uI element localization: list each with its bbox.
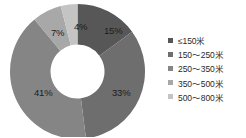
legend-item-label: 500～800米 <box>178 91 224 103</box>
legend-item-label: 350～500米 <box>178 77 224 89</box>
chart-legend: ≤150米150～250米250～350米350～500米500～800米 <box>168 33 244 104</box>
legend-item-label: 250～350米 <box>178 62 224 74</box>
legend-item[interactable]: 250～350米 <box>168 61 244 75</box>
chart-container: 15%33%41%7%4% ≤150米150～250米250～350米350～5… <box>0 0 246 138</box>
legend-item[interactable]: 150～250米 <box>168 47 244 61</box>
donut-slice-label: 15% <box>104 25 122 36</box>
legend-item[interactable]: ≤150米 <box>168 33 244 47</box>
legend-swatch-icon <box>168 38 173 43</box>
donut-chart: 15%33%41%7%4% <box>8 3 148 137</box>
legend-swatch-icon <box>168 52 173 57</box>
legend-swatch-icon <box>168 80 173 85</box>
donut-slice-label: 41% <box>34 87 52 98</box>
legend-item[interactable]: 500～800米 <box>168 90 244 104</box>
donut-slice-label: 4% <box>74 21 87 32</box>
legend-item-label: ≤150米 <box>178 34 205 46</box>
legend-swatch-icon <box>168 66 173 71</box>
legend-item[interactable]: 350～500米 <box>168 76 244 90</box>
donut-slice-label: 33% <box>112 87 130 98</box>
legend-item-label: 150～250米 <box>178 48 224 60</box>
legend-swatch-icon <box>168 94 173 99</box>
donut-slice-label: 7% <box>51 27 64 38</box>
